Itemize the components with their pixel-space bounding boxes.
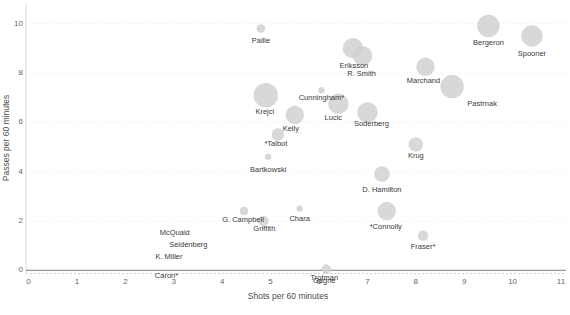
data-point-label: Spooner: [518, 49, 547, 58]
x-tick-label-7: 7: [365, 277, 370, 286]
data-point-label: K. Miller: [155, 252, 183, 261]
x-tick-label-0: 0: [26, 277, 31, 286]
data-point-label: Griffith: [253, 224, 275, 233]
data-point-label: Bartkowski: [250, 165, 287, 174]
data-point-bubble: [240, 207, 248, 215]
y-tick-label-2: 2: [19, 216, 24, 225]
data-point-label: Bergeron: [473, 38, 504, 47]
y-tick-label-0: 0: [19, 265, 24, 274]
y-tick-label-8: 8: [19, 68, 24, 77]
data-point-bubble: [374, 167, 389, 182]
data-point-label: *Talbot: [264, 139, 288, 148]
data-point-bubble: [477, 15, 499, 37]
data-point-label: R. Smith: [347, 69, 376, 78]
data-point-label: D. Hamilton: [362, 185, 401, 194]
data-point-label: Pastrnak: [467, 99, 497, 108]
x-tick-label-5: 5: [268, 277, 273, 286]
y-axis-title: Passes per 60 minutes: [1, 95, 11, 181]
data-point-label: G. Campbell: [222, 215, 264, 224]
data-point-label: Seidenberg: [169, 240, 207, 249]
data-point-label: Krejci: [255, 107, 274, 116]
data-point-bubble: [254, 83, 278, 107]
x-tick-label-9: 9: [462, 277, 467, 286]
x-tick-label-1: 1: [75, 277, 80, 286]
bubble-scatter-svg: 012345678910110246810 PailleBergeronSpoo…: [0, 0, 570, 315]
data-point-label: Marchand: [407, 76, 440, 85]
data-point-label: Chara: [289, 214, 310, 223]
x-tick-label-2: 2: [123, 277, 128, 286]
x-axis-title: Shots per 60 minutes: [248, 291, 328, 301]
data-point-bubble: [409, 137, 423, 151]
data-point-label: Fraser*: [411, 242, 436, 251]
data-point-label: Kelly: [283, 124, 300, 133]
data-point-bubble: [257, 25, 265, 33]
data-point-label: *Connolly: [370, 222, 402, 231]
data-point-bubble: [418, 231, 428, 241]
data-point-label: Lucic: [325, 113, 343, 122]
data-point-label: McQuaid: [160, 228, 190, 237]
data-point-bubble: [441, 75, 464, 98]
y-tick-label-6: 6: [19, 117, 24, 126]
x-tick-label-8: 8: [414, 277, 419, 286]
data-point-bubble: [297, 206, 303, 212]
data-point-label: Paille: [252, 36, 270, 45]
data-point-bubble: [265, 154, 271, 160]
data-point-bubble: [416, 58, 434, 76]
data-point-label: Cunningham*: [299, 93, 345, 102]
x-tick-label-10: 10: [508, 277, 517, 286]
data-point-bubble: [378, 202, 396, 220]
data-point-label: Soderberg: [354, 119, 389, 128]
data-point-bubble: [521, 25, 542, 46]
y-tick-label-10: 10: [14, 19, 23, 28]
data-point-label: Caron*: [155, 271, 178, 280]
data-point-bubble: [286, 106, 304, 124]
y-tick-label-4: 4: [19, 167, 24, 176]
x-tick-label-11: 11: [557, 277, 566, 286]
data-point-label: Gagne: [313, 276, 336, 285]
x-tick-label-4: 4: [220, 277, 225, 286]
data-point-labels: PailleBergeronSpoonerErikssonR. SmithMar…: [155, 36, 547, 286]
data-point-label: Krug: [408, 151, 424, 160]
bubble-scatter-chart: 012345678910110246810 PailleBergeronSpoo…: [0, 0, 570, 315]
